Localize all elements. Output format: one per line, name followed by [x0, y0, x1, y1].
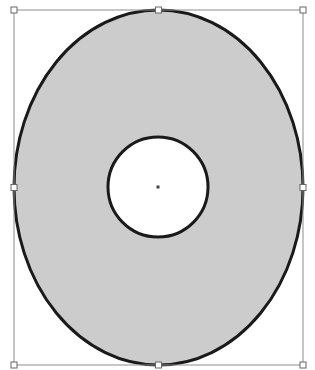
center-point-marker	[157, 186, 160, 189]
resize-handle-bottom-left[interactable]	[11, 362, 17, 368]
resize-handle-middle-left[interactable]	[11, 185, 17, 191]
drawing-canvas[interactable]	[0, 0, 315, 370]
resize-handle-bottom-right[interactable]	[300, 362, 306, 368]
resize-handle-top-left[interactable]	[11, 7, 17, 13]
resize-handle-top-center[interactable]	[156, 7, 162, 13]
resize-handle-middle-right[interactable]	[300, 185, 306, 191]
resize-handle-top-right[interactable]	[300, 7, 306, 13]
resize-handle-bottom-center[interactable]	[156, 362, 162, 368]
